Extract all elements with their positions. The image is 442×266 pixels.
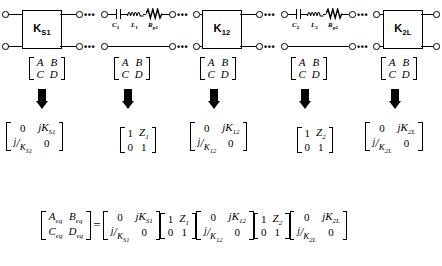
ellipsis-2-top: ••• xyxy=(177,11,188,20)
bracket-right xyxy=(418,122,423,151)
bracket-right xyxy=(232,57,237,80)
matrix-cells: Aeq Beq Ceq Deq xyxy=(46,211,87,240)
ellipsis-1-top: ••• xyxy=(84,11,95,20)
f2-r1c1: 1 xyxy=(178,227,190,239)
m3-r0c1: jK12 xyxy=(219,122,242,137)
label-c2: C2 xyxy=(292,21,299,30)
abcd-c: C xyxy=(119,69,132,81)
abcd-matrix-4: A B C D xyxy=(291,57,327,80)
wire-res1-d xyxy=(162,14,169,15)
wire-res2-d xyxy=(342,14,349,15)
abcd-a: A xyxy=(205,57,218,69)
m2-r1c0: 0 xyxy=(125,142,137,154)
eq-deq: Deq xyxy=(65,226,86,241)
bracket-right xyxy=(61,57,66,80)
abcd-matrix-5: A B C D xyxy=(381,57,417,80)
wire-out-bottom xyxy=(421,46,433,47)
f3-r1c1: 0 xyxy=(232,227,244,239)
matrix-cells: 0 jK2L j/K2L 0 xyxy=(294,211,343,240)
abcd-b: B xyxy=(309,57,322,69)
m2-r1c1: 1 xyxy=(138,142,150,154)
coupling-box-k2l-label: K2L xyxy=(394,22,411,37)
eq-beq: Beq xyxy=(66,211,85,226)
abcd-c: C xyxy=(205,69,218,81)
abcd-b: B xyxy=(132,57,145,69)
bracket-right xyxy=(146,57,151,80)
down-arrow-1 xyxy=(33,89,51,111)
f5-r1c0: j/K2L xyxy=(294,226,319,241)
matrix-k-12: 0 jK12 j/K12 0 xyxy=(190,122,247,151)
label-l2: L2 xyxy=(311,21,318,30)
f3-r0c1: jK12 xyxy=(226,211,249,226)
matrix-z2: 1 Z2 0 1 xyxy=(297,127,333,153)
abcd-c: C xyxy=(386,69,399,81)
eq-matrix-k-s1: 0 jKS1 j/KS1 0 xyxy=(103,211,160,240)
circuit-schematic: KS1 ••• ••• C1 L1 Rp1 ••• ••• xyxy=(0,0,442,55)
abcd-matrix-2: A B C D xyxy=(114,57,150,80)
matrix-cells: 0 jKS1 j/KS1 0 xyxy=(108,211,156,240)
abcd-b: B xyxy=(399,57,412,69)
ellipsis-4-top: ••• xyxy=(357,11,368,20)
terminal-ks1-top xyxy=(76,11,83,18)
resistor-rp2 xyxy=(326,8,343,20)
ellipsis-1-bottom: ••• xyxy=(84,43,95,52)
coupling-box-k12-label: K12 xyxy=(214,22,231,37)
down-arrow-3 xyxy=(205,89,223,111)
f5-r0c1: jK2L xyxy=(319,211,343,226)
f2-r0c0: 1 xyxy=(165,214,177,226)
f5-r1c1: 0 xyxy=(325,227,337,239)
matrix-cells: 0 jKS1 j/KS1 0 xyxy=(11,122,59,151)
abcd-cells: A B C D xyxy=(119,57,146,80)
f1-r1c1: 0 xyxy=(138,227,150,239)
matrix-cells: 1 Z1 0 1 xyxy=(125,127,152,153)
wire-k12-out-top xyxy=(240,14,256,15)
m1-r0c1: jKS1 xyxy=(35,122,58,137)
m1-r1c0: j/KS1 xyxy=(11,137,36,152)
m3-r0c0: 0 xyxy=(201,123,213,135)
eq-matrix-k-12: 0 jK12 j/K12 0 xyxy=(196,211,253,240)
wire-res1-a xyxy=(108,14,116,15)
abcd-d: D xyxy=(132,69,146,81)
wire-ks1-out-bottom xyxy=(60,46,76,47)
terminal-res1-out-top xyxy=(169,11,176,18)
ellipsis-3-top: ••• xyxy=(264,11,275,20)
terminal-out-bottom xyxy=(433,43,440,50)
resistor-rp1 xyxy=(146,8,163,20)
down-arrow-2 xyxy=(119,89,137,111)
capacitor-c1-plate-left xyxy=(116,9,117,19)
terminal-res2-out-top xyxy=(349,11,356,18)
bracket-right xyxy=(329,127,334,153)
abcd-d: D xyxy=(309,69,323,81)
f4-r1c0: 0 xyxy=(258,227,270,239)
f3-r1c0: j/K12 xyxy=(201,226,226,241)
eq-aeq: Aeq xyxy=(46,211,65,226)
f1-r0c1: jKS1 xyxy=(132,211,155,226)
m5-r1c1: 0 xyxy=(401,138,413,150)
matrix-k-2l: 0 jK2L j/K2L 0 xyxy=(365,122,423,151)
abcd-d: D xyxy=(399,69,413,81)
terminal-out-top xyxy=(433,11,440,18)
m2-r0c1: Z1 xyxy=(136,127,152,142)
bracket-right xyxy=(152,127,157,153)
bracket-right xyxy=(86,211,91,240)
wire-res2-bottom xyxy=(288,46,350,47)
label-rp2: Rp2 xyxy=(328,21,338,30)
f4-r0c0: 1 xyxy=(258,214,270,226)
ellipsis-2-bottom: ••• xyxy=(177,43,188,52)
ellipsis-3-bottom: ••• xyxy=(264,43,275,52)
bracket-right xyxy=(243,122,248,151)
m3-r1c1: 0 xyxy=(225,138,237,150)
bracket-right xyxy=(343,211,348,240)
abcd-matrix-3: A B C D xyxy=(200,57,236,80)
wire-out-top xyxy=(421,14,433,15)
matrix-cells: 1 Z2 0 1 xyxy=(258,213,285,239)
equivalent-abcd-equation: Aeq Beq Ceq Deq = 0 jKS1 j/KS1 0 1 xyxy=(41,211,347,240)
abcd-d: D xyxy=(47,69,61,81)
f4-r0c1: Z2 xyxy=(270,213,286,228)
eq-matrix-z2: 1 Z2 0 1 xyxy=(254,213,290,239)
coupling-box-k12: K12 xyxy=(202,10,242,49)
abcd-a: A xyxy=(34,57,47,69)
m4-r0c1: Z2 xyxy=(313,127,329,142)
eq-matrix-z1: 1 Z1 0 1 xyxy=(160,213,196,239)
eq-matrix-k-2l: 0 jK2L j/K2L 0 xyxy=(290,211,348,240)
